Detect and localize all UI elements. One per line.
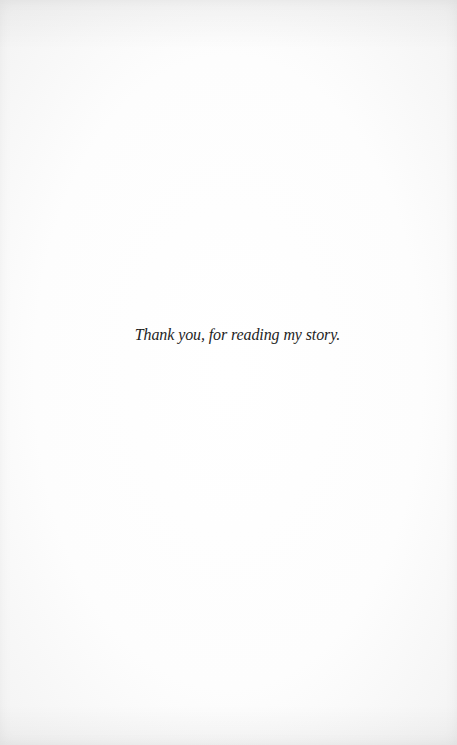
closing-message: Thank you, for reading my story. — [0, 326, 457, 344]
book-page: Thank you, for reading my story. — [0, 0, 457, 745]
page-show-through-top — [0, 0, 457, 50]
page-show-through-bottom — [0, 705, 457, 745]
